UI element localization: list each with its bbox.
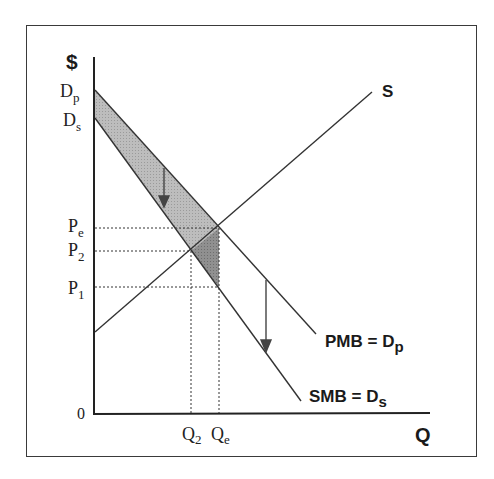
p2-label: P2	[68, 240, 85, 264]
supply-label: S	[382, 82, 393, 101]
externality-diagram: $ Q 0 Dp Ds Pe P2 P1 Q2 Qe S PMB = Dp SM…	[0, 0, 494, 479]
pmb-label: PMB = Dp	[325, 332, 404, 355]
supply-curve	[95, 92, 372, 332]
pe-label: Pe	[68, 216, 84, 240]
y-axis-label: $	[66, 50, 78, 73]
x-axis	[93, 413, 430, 414]
smb-curve	[95, 118, 301, 401]
x-axis-label: Q	[415, 424, 431, 446]
pmb-curve	[95, 90, 316, 334]
p1-label: P1	[68, 278, 85, 302]
dp-label: Dp	[60, 81, 80, 105]
qe-label: Qe	[211, 424, 230, 447]
smb-label: SMB = Ds	[309, 387, 387, 410]
arrow-down-icon	[261, 340, 271, 352]
q2-label: Q2	[182, 424, 202, 447]
origin-label: 0	[77, 405, 85, 422]
ds-label: Ds	[63, 110, 81, 134]
